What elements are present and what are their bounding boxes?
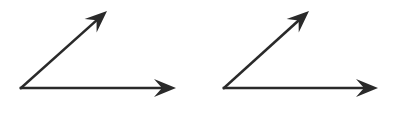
horizontal-ray bbox=[21, 79, 176, 97]
right-angle bbox=[224, 11, 378, 97]
angles-layer bbox=[21, 11, 378, 97]
upper-ray bbox=[21, 11, 107, 88]
horizontal-ray bbox=[224, 79, 378, 97]
angles-diagram bbox=[0, 0, 398, 113]
ray-line bbox=[224, 19, 300, 88]
upper-ray bbox=[224, 11, 309, 88]
left-angle bbox=[21, 11, 176, 97]
ray-line bbox=[21, 19, 98, 88]
diagram-canvas bbox=[0, 0, 398, 113]
